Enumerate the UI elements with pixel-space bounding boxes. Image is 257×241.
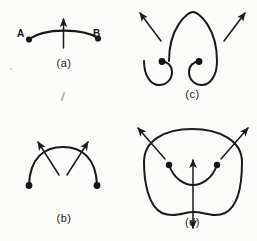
center-dot-right — [196, 58, 203, 65]
figure-container: A B (a) (b) — [0, 0, 257, 241]
endpoint-label-a: A — [17, 28, 24, 39]
panel-c: (c) — [128, 0, 257, 120]
panel-d: (d) — [128, 120, 257, 241]
spiral-curve-c-left — [144, 61, 172, 85]
center-dot-left — [159, 58, 166, 65]
panel-a: A B (a) — [0, 0, 128, 120]
normal-arrow-up-right — [221, 128, 248, 159]
normal-arrow-up-left — [138, 128, 165, 159]
endpoint-dot-a — [26, 36, 32, 42]
caption-c: (c) — [128, 88, 257, 100]
normal-arrow-up-left — [140, 13, 161, 41]
endpoint-dot-left — [26, 182, 33, 189]
spiral-curve-c — [169, 12, 217, 85]
inner-dot-right — [214, 162, 220, 168]
caption-a: (a) — [0, 57, 128, 69]
endpoint-dot-right — [94, 182, 101, 189]
caption-b: (b) — [0, 212, 128, 224]
panel-b: (b) — [0, 120, 128, 241]
panel-c-drawing — [128, 0, 257, 120]
caption-d: (d) — [128, 216, 257, 228]
endpoint-label-b: B — [93, 28, 100, 39]
inner-dot-left — [166, 162, 172, 168]
scan-speck — [232, 200, 234, 202]
arc-b — [29, 147, 97, 185]
scan-speck — [10, 68, 13, 70]
normal-arrow-up-right — [224, 13, 245, 41]
